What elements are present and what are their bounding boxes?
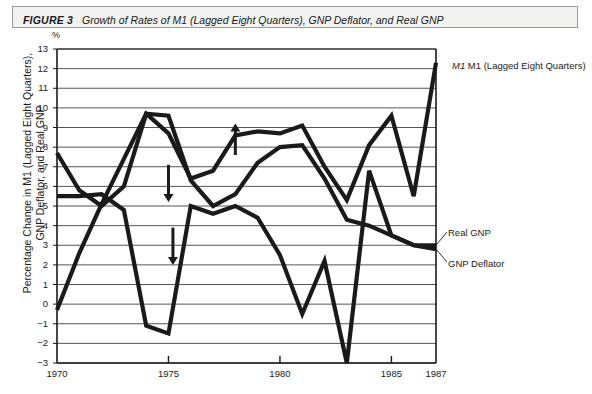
y-tick-label: 11 — [26, 82, 48, 93]
gridlines — [53, 49, 436, 363]
series-label-real-gnp: Real GNP — [448, 227, 491, 238]
y-tick-label: 7 — [26, 161, 48, 172]
y-tick-label: 10 — [26, 102, 48, 113]
y-tick-label: −2 — [26, 337, 48, 348]
label-leader-lines — [436, 232, 447, 262]
x-tick-label: 1970 — [37, 368, 77, 379]
x-tick-label: 1975 — [148, 368, 188, 379]
y-tick-label: 9 — [26, 122, 48, 133]
leader-line-gnp-deflator — [436, 249, 447, 262]
x-tick-label: 1980 — [260, 368, 300, 379]
series-label-m1: M1 M1 (Lagged Eight Quarters) — [452, 60, 586, 71]
y-tick-label: −1 — [26, 318, 48, 329]
leader-line-real-gnp — [436, 232, 447, 245]
annotation-down-arrow — [168, 228, 178, 265]
y-tick-label: 5 — [26, 200, 48, 211]
y-tick-label: 3 — [26, 239, 48, 250]
y-tick-label: 4 — [26, 220, 48, 231]
x-axis-ticks — [168, 356, 391, 363]
y-tick-label: 2 — [26, 259, 48, 270]
y-tick-label: 8 — [26, 141, 48, 152]
y-tick-label: 12 — [26, 63, 48, 74]
y-tick-label: 1 — [26, 279, 48, 290]
y-tick-label: −3 — [26, 357, 48, 368]
y-tick-label: 6 — [26, 180, 48, 191]
x-tick-label: 1985 — [371, 368, 411, 379]
figure-root: FIGURE 3Growth of Rates of M1 (Lagged Ei… — [0, 0, 592, 394]
series-label-m1-text: M1 (Lagged Eight Quarters) — [468, 60, 586, 71]
y-tick-label: 0 — [26, 298, 48, 309]
annotation-down-arrow — [163, 165, 173, 202]
series-label-gnp-deflator: GNP Deflator — [448, 258, 504, 269]
y-tick-label: 13 — [26, 43, 48, 54]
series-line-real-gnp — [57, 171, 436, 363]
x-tick-label: 1987 — [416, 368, 456, 379]
